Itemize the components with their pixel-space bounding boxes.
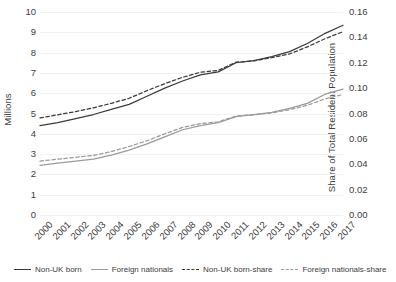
legend-item[interactable]: Foreign nationals (91, 265, 173, 274)
legend-swatch-icon (182, 269, 199, 270)
y-axis-left-tick-label: 1 (12, 190, 36, 200)
y-axis-right-tick-label: 0.12 (349, 58, 377, 68)
y-axis-right-tick-label: 0.00 (349, 210, 377, 220)
chart-figure: Millions Share of Total Resident Populat… (0, 0, 396, 282)
y-axis-left-tick-label: 7 (12, 68, 36, 78)
y-axis-left-tick-label: 6 (12, 88, 36, 98)
series-line (40, 89, 343, 165)
plot-area (40, 12, 343, 215)
y-axis-left-tick-label: 0 (12, 210, 36, 220)
y-axis-right-tick-label: 0.02 (349, 185, 377, 195)
y-axis-right-tick-label: 0.06 (349, 134, 377, 144)
y-axis-left-tick-label: 10 (12, 7, 36, 17)
y-axis-left-tick-label: 5 (12, 109, 36, 119)
y-axis-right-tick-label: 0.14 (349, 32, 377, 42)
legend-item-label: Foreign nationals-share (302, 265, 386, 274)
legend-swatch-icon (14, 269, 31, 270)
legend-swatch-icon (91, 269, 108, 270)
y-axis-left-tick-label: 8 (12, 48, 36, 58)
legend-item[interactable]: Non-UK born (14, 265, 82, 274)
legend-item-label: Foreign nationals (112, 265, 173, 274)
y-axis-left-title: Millions (2, 77, 13, 143)
legend-item-label: Non-UK born-share (203, 265, 272, 274)
chart-legend: Non-UK bornForeign nationalsNon-UK born-… (14, 262, 386, 276)
y-axis-right-tick-label: 0.08 (349, 109, 377, 119)
legend-item-label: Non-UK born (35, 265, 82, 274)
y-axis-right-tick-label: 0.10 (349, 83, 377, 93)
legend-item[interactable]: Non-UK born-share (182, 265, 272, 274)
y-axis-left-tick-label: 2 (12, 169, 36, 179)
series-line (40, 32, 343, 118)
y-axis-right-tick-label: 0.04 (349, 159, 377, 169)
y-axis-right-tick-label: 0.16 (349, 7, 377, 17)
y-axis-left-tick-label: 9 (12, 27, 36, 37)
series-lines (40, 12, 343, 215)
legend-item[interactable]: Foreign nationals-share (281, 265, 386, 274)
y-axis-left-tick-label: 4 (12, 129, 36, 139)
legend-swatch-icon (281, 269, 298, 270)
y-axis-left-tick-label: 3 (12, 149, 36, 159)
gridline (40, 215, 343, 216)
